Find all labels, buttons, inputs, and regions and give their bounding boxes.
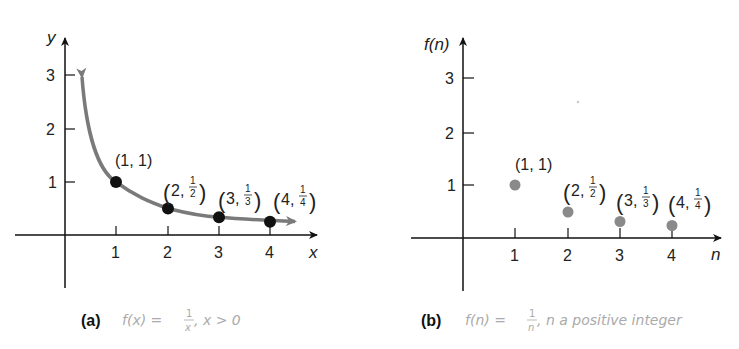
svg-text:1: 1 [695, 187, 701, 198]
svg-text:): ) [599, 180, 606, 205]
data-point [213, 211, 225, 223]
y-tick-label-2: 2 [46, 121, 55, 138]
svg-text:x: x [184, 322, 191, 333]
caption-b: (b) f(n) = 1 n , n a positive integer [421, 308, 683, 333]
x-tick-label-4: 4 [265, 244, 274, 261]
svg-text:1: 1 [190, 175, 196, 186]
svg-text:3,: 3, [226, 190, 239, 207]
caption-a: (a) f(x) = 1 x , x > 0 [81, 308, 241, 333]
svg-text:(: ( [218, 188, 226, 213]
svg-text:): ) [199, 180, 206, 205]
data-point [110, 176, 122, 188]
svg-text:): ) [704, 192, 711, 217]
y-tick-label-3: 3 [46, 67, 55, 84]
x-tick-label-1: 1 [111, 244, 120, 261]
svg-text:4,: 4, [281, 191, 294, 208]
caption-tag-b: (b) [421, 312, 441, 329]
y-tick-label-1: 1 [48, 174, 57, 191]
point-label-2: ( 2, 1 2 ) [563, 175, 606, 205]
svg-text:2: 2 [190, 188, 196, 199]
x-tick-label-3: 3 [615, 247, 624, 264]
svg-text:4,: 4, [676, 194, 689, 211]
svg-text:, x > 0: , x > 0 [194, 312, 241, 328]
svg-text:1: 1 [529, 308, 535, 319]
svg-text:f(x) =: f(x) = [122, 312, 162, 328]
panel-b: f(n) n 1 2 3 1 2 3 4 (1, 1) ( 2, 1 2 [411, 35, 721, 333]
x-tick-label-2: 2 [163, 244, 172, 261]
x-tick-label-2: 2 [563, 247, 572, 264]
svg-text:(: ( [616, 190, 624, 215]
svg-text:): ) [652, 190, 659, 215]
data-point [563, 207, 574, 218]
svg-text:3: 3 [643, 198, 649, 209]
svg-text:2: 2 [590, 188, 596, 199]
x-axis-label: n [711, 245, 720, 264]
x-tick-label-3: 3 [214, 244, 223, 261]
svg-text:4: 4 [300, 197, 306, 208]
data-point [615, 216, 626, 227]
data-point [667, 220, 678, 231]
panel-a: y x 1 2 3 1 2 3 4 (1, 1) ( 2, 1 2 [15, 28, 318, 333]
data-point [510, 180, 521, 191]
svg-text:1: 1 [186, 308, 192, 319]
x-axis-label: x [308, 243, 318, 262]
y-tick-label-3: 3 [445, 70, 454, 87]
point-label-3: ( 3, 1 3 ) [218, 183, 261, 213]
svg-text:2,: 2, [171, 182, 184, 199]
svg-text:1: 1 [590, 175, 596, 186]
svg-text:3,: 3, [624, 192, 637, 209]
y-axis-label: f(n) [424, 35, 450, 54]
point-label-4: ( 4, 1 4 ) [668, 187, 711, 217]
svg-text:2,: 2, [571, 182, 584, 199]
svg-text:): ) [309, 189, 316, 214]
figure: y x 1 2 3 1 2 3 4 (1, 1) ( 2, 1 2 [0, 0, 739, 349]
caption-tag-a: (a) [81, 312, 101, 329]
speck [577, 101, 580, 104]
point-label-1: (1, 1) [115, 152, 152, 169]
svg-text:, n a positive integer: , n a positive integer [537, 312, 683, 328]
y-tick-label-2: 2 [445, 125, 454, 142]
svg-text:n: n [528, 322, 534, 333]
svg-text:(: ( [668, 192, 676, 217]
svg-text:f(n) =: f(n) = [465, 312, 506, 328]
svg-text:1: 1 [245, 183, 251, 194]
y-tick-label-1: 1 [447, 177, 456, 194]
x-tick-label-4: 4 [667, 247, 676, 264]
svg-text:1: 1 [643, 185, 649, 196]
point-label-2: ( 2, 1 2 ) [163, 175, 206, 205]
svg-text:(: ( [273, 189, 281, 214]
y-axis-label: y [46, 28, 57, 47]
point-label-4: ( 4, 1 4 ) [273, 184, 316, 214]
svg-text:1: 1 [300, 184, 306, 195]
point-label-3: ( 3, 1 3 ) [616, 185, 659, 215]
svg-text:): ) [254, 188, 261, 213]
svg-text:3: 3 [245, 196, 251, 207]
svg-text:(: ( [563, 180, 571, 205]
data-point [264, 216, 276, 228]
svg-text:4: 4 [695, 200, 701, 211]
point-label-1: (1, 1) [515, 156, 552, 173]
x-tick-label-1: 1 [510, 247, 519, 264]
curve-1-over-x [82, 77, 295, 222]
svg-text:(: ( [163, 180, 171, 205]
